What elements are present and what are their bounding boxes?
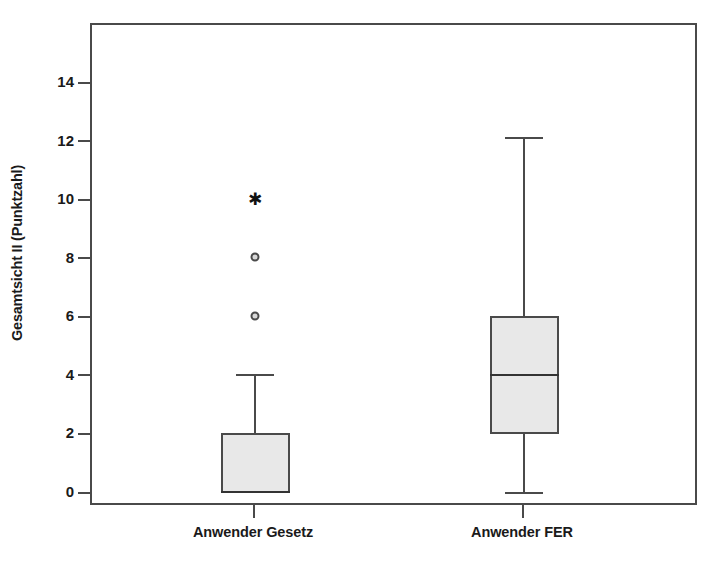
median-line-group2 (490, 374, 559, 376)
y-tick-mark-12 (78, 140, 90, 142)
whisker-lower-line-group2 (523, 433, 525, 493)
y-tick-label-8: 8 (32, 250, 74, 265)
whisker-upper-cap-group2 (505, 137, 543, 139)
plot-area: ✱ (90, 23, 697, 505)
boxplot-figure: Gesamtsicht II (Punktzahl) 14 12 10 8 6 … (0, 0, 707, 570)
y-tick-mark-4 (78, 374, 90, 376)
whisker-upper-line-group1 (254, 374, 256, 433)
y-axis-ticks: 14 12 10 8 6 4 2 0 (0, 0, 74, 570)
x-tick-label-group1: Anwender Gesetz (193, 524, 313, 540)
outlier-point-group1-6 (251, 312, 260, 321)
y-tick-mark-6 (78, 316, 90, 318)
whisker-lower-cap-group2 (505, 492, 543, 494)
y-tick-label-12: 12 (32, 133, 74, 148)
y-tick-label-4: 4 (32, 367, 74, 382)
y-tick-label-2: 2 (32, 425, 74, 440)
whisker-upper-cap-group1 (236, 374, 274, 376)
x-tick-label-group2: Anwender FER (471, 524, 573, 540)
box-group1 (221, 433, 290, 493)
x-tick-mark-group2 (522, 505, 524, 518)
y-tick-mark-8 (78, 257, 90, 259)
extreme-point-group1-10: ✱ (248, 191, 262, 208)
y-tick-mark-0 (78, 492, 90, 494)
y-tick-mark-10 (78, 199, 90, 201)
y-tick-label-14: 14 (32, 74, 74, 89)
y-tick-label-6: 6 (32, 308, 74, 323)
median-line-group1 (221, 491, 290, 493)
y-tick-label-10: 10 (32, 191, 74, 206)
y-tick-mark-14 (78, 82, 90, 84)
outlier-point-group1-8 (251, 253, 260, 262)
y-tick-label-0: 0 (32, 484, 74, 499)
x-tick-mark-group1 (253, 505, 255, 518)
y-tick-mark-2 (78, 433, 90, 435)
whisker-upper-line-group2 (523, 137, 525, 318)
